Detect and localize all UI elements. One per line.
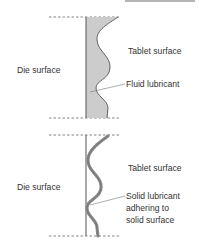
fluid-lubricant-label: Fluid lubricant	[126, 79, 180, 90]
die-surface-label-bottom: Die surface	[17, 182, 60, 193]
solid-lubricant-label-line1: Solid lubricant	[126, 191, 180, 202]
tablet-surface-label-top: Tablet surface	[128, 46, 182, 57]
top-bar	[125, 0, 195, 2]
lubrication-diagram	[0, 0, 199, 250]
solid-lubricant-beads	[87, 136, 108, 236]
solid-lubricant-label-line3: solid surface	[126, 215, 174, 226]
fluid-lubricant-fill	[86, 17, 118, 118]
solid-lubricant-label-line2: adhering to	[126, 203, 169, 214]
die-surface-label-top: Die surface	[17, 65, 60, 76]
tablet-surface-label-bottom: Tablet surface	[128, 163, 182, 174]
